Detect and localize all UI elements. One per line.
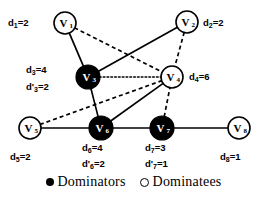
edge-v1-v3 [69,33,83,67]
edge-v7-v4 [164,87,170,116]
degree-value: =2 [18,17,29,28]
degree-subscript: 1 [14,22,18,29]
degree-symbol: d' [82,158,90,169]
node-subscript-v4: 4 [177,76,181,84]
node-v8[interactable]: V8 [228,117,250,139]
degree-label-d4: d4=6 [189,72,210,82]
degree-subscript: 3 [32,69,36,76]
node-v2[interactable]: V2 [176,11,198,33]
legend-label-dominators: Dominators [58,174,126,190]
degree-value: =4 [92,142,103,153]
node-label-v2: V [182,16,190,28]
node-subscript-v8: 8 [244,127,248,135]
degree-subscript: 4 [195,76,199,83]
node-v1[interactable]: V1 [54,12,76,34]
degree-label-d7: d7=3 [145,143,166,153]
degree-subscript: 2 [209,22,213,29]
node-label-v5: V [25,122,33,134]
degree-symbol: d [8,17,14,28]
degree-subscript: 3 [34,86,38,93]
degree-symbol: d [10,151,16,162]
node-label-v7: V [157,122,165,134]
edge-v3-v6 [91,88,98,117]
degree-value: =4 [36,64,47,75]
degree-value: =2 [213,17,224,28]
degree-value: =2 [38,81,49,92]
node-subscript-v5: 5 [35,127,39,135]
degree-label-d8: d8=1 [220,152,241,162]
node-subscript-v2: 2 [192,21,196,29]
degree-label-d6p: d'6=2 [82,159,105,169]
degree-symbol: d [220,151,226,162]
degree-value: =3 [155,142,166,153]
degree-subscript: 8 [226,156,230,163]
degree-value: =1 [230,151,241,162]
figure-canvas: V1V2V3V4V5V6V7V8 d1=2d2=2d3=4d'3=2d4=6d5… [0,0,267,206]
filled-circle-icon [46,178,54,186]
edge-v3-v2 [98,27,178,71]
edge-v6-v4 [110,83,163,121]
degree-subscript: 6 [88,147,92,154]
degree-label-d5: d5=2 [10,152,31,162]
degree-subscript: 7 [153,163,157,170]
degree-value: =1 [157,158,168,169]
node-v6[interactable]: V6 [89,116,113,140]
legend-label-dominatees: Dominatees [153,174,222,190]
degree-label-d3: d3=4 [26,65,47,75]
degree-label-d1: d1=2 [8,18,29,28]
degree-label-d6: d6=4 [82,143,103,153]
node-subscript-v7: 7 [167,127,171,135]
node-layer: V1V2V3V4V5V6V7V8 [19,11,250,140]
node-label-v1: V [60,17,68,29]
degree-symbol: d' [145,158,153,169]
degree-subscript: 6 [90,163,94,170]
degree-symbol: d [82,142,88,153]
degree-label-d2: d2=2 [203,18,224,28]
node-subscript-v1: 1 [70,22,74,30]
node-label-v6: V [96,122,104,134]
node-v5[interactable]: V5 [19,117,41,139]
legend-item-dominatees: Dominatees [140,174,222,190]
degree-value: =2 [94,158,105,169]
node-subscript-v3: 3 [93,76,97,84]
edge-v2-v4 [175,32,184,67]
open-circle-icon [140,178,149,187]
degree-symbol: d [203,17,209,28]
legend: Dominators Dominatees [0,170,267,194]
degree-subscript: 5 [16,156,20,163]
degree-symbol: d' [26,81,34,92]
degree-symbol: d [145,142,151,153]
node-v4[interactable]: V4 [161,66,183,88]
node-v7[interactable]: V7 [150,116,174,140]
node-v3[interactable]: V3 [76,65,100,89]
degree-symbol: d [26,64,32,75]
legend-item-dominators: Dominators [46,174,126,190]
degree-value: =6 [199,71,210,82]
node-label-v3: V [83,71,91,83]
degree-label-d7p: d'7=1 [145,159,168,169]
degree-subscript: 7 [151,147,155,154]
degree-value: =2 [20,151,31,162]
degree-label-d3p: d'3=2 [26,82,49,92]
node-subscript-v6: 6 [106,127,110,135]
node-label-v8: V [234,122,242,134]
node-label-v4: V [167,71,175,83]
degree-symbol: d [189,71,195,82]
